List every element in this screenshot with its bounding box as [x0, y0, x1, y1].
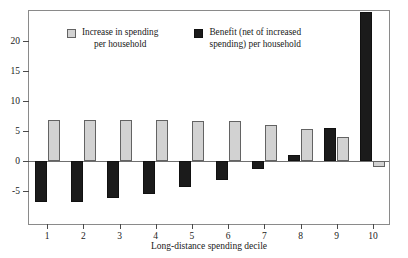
x-axis-tick-label: 7: [262, 231, 267, 241]
y-axis-tick: [23, 161, 29, 162]
legend-item-increase-in-spending: Increase in spending per household: [67, 27, 158, 50]
y-axis-tick-label: 0: [15, 156, 20, 166]
legend-label-line1: Benefit (net of increased: [209, 27, 301, 37]
x-axis-tick-label: 2: [81, 231, 86, 241]
x-axis-tick: [301, 224, 302, 229]
x-axis-tick: [337, 224, 338, 229]
x-axis-tick-label: 8: [298, 231, 303, 241]
bar: [360, 12, 372, 161]
bar: [229, 121, 241, 161]
bar: [71, 161, 83, 202]
bar: [252, 161, 264, 169]
x-axis-tick-label: 10: [368, 231, 378, 241]
x-axis-title: Long-distance spending decile: [28, 241, 390, 251]
x-axis-tick: [156, 224, 157, 229]
y-axis-tick-label: 10: [11, 96, 21, 106]
bar: [48, 120, 60, 161]
zero-baseline: [29, 161, 389, 162]
y-axis-tick: [23, 131, 29, 132]
x-axis-tick-label: 4: [153, 231, 158, 241]
legend-item-benefit: Benefit (net of increased spending) per …: [194, 27, 301, 50]
bar: [35, 161, 47, 202]
y-axis-tick: [23, 71, 29, 72]
legend-label-line2: spending) per household: [210, 39, 301, 49]
legend-swatch-black-icon: [194, 29, 203, 38]
x-axis-tick-label: 9: [334, 231, 339, 241]
legend-swatch-gray-icon: [67, 29, 76, 38]
x-axis-tick: [228, 224, 229, 229]
legend-label-increase-in-spending: Increase in spending per household: [82, 27, 158, 50]
bar: [337, 137, 349, 161]
bar: [192, 121, 204, 161]
x-axis-tick-label: 5: [190, 231, 195, 241]
figure: 20151050-5 12345678910 Increase in spend…: [0, 0, 408, 258]
bar: [324, 128, 336, 161]
bar: [120, 120, 132, 161]
bar: [179, 161, 191, 187]
y-axis-tick-label: -5: [12, 186, 20, 196]
chart-legend: Increase in spending per household Benef…: [67, 27, 301, 50]
bar: [107, 161, 119, 198]
bar: [216, 161, 228, 180]
bar: [265, 125, 277, 161]
bar: [288, 155, 300, 161]
x-axis-tick-label: 3: [117, 231, 122, 241]
plot-area: 20151050-5 12345678910 Increase in spend…: [28, 10, 390, 225]
y-axis-tick-label: 15: [11, 66, 21, 76]
bar: [156, 120, 168, 161]
x-axis-tick: [47, 224, 48, 229]
y-axis-tick: [23, 41, 29, 42]
bar: [143, 161, 155, 194]
y-axis-tick: [23, 191, 29, 192]
x-axis-tick: [120, 224, 121, 229]
y-axis-tick-label: 5: [15, 126, 20, 136]
legend-label-line1: Increase in spending: [82, 27, 158, 37]
bar: [373, 161, 385, 167]
x-axis-tick-label: 6: [226, 231, 231, 241]
x-axis-tick: [264, 224, 265, 229]
x-axis-tick-label: 1: [45, 231, 50, 241]
y-axis-tick: [23, 101, 29, 102]
bar: [301, 129, 313, 161]
x-axis-tick: [192, 224, 193, 229]
x-axis-tick: [83, 224, 84, 229]
legend-label-line2: per household: [94, 39, 146, 49]
legend-label-benefit: Benefit (net of increased spending) per …: [209, 27, 301, 50]
x-axis-tick: [373, 224, 374, 229]
y-axis-tick-label: 20: [11, 36, 21, 46]
bar: [84, 120, 96, 161]
